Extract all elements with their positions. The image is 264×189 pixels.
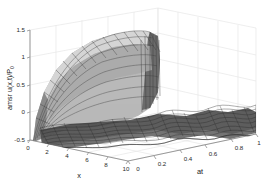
z-axis-label-main: amsr u(x,t)/P bbox=[5, 69, 14, 110]
y-tick-label: 0.2 bbox=[158, 160, 167, 167]
y-axis-label: at bbox=[197, 167, 203, 176]
z-axis-label-subscript: 0 bbox=[9, 66, 15, 69]
z-tick-labels: 1.5 1 0.5 0 -0.5 bbox=[14, 26, 25, 143]
y-tick-label: 0.8 bbox=[235, 144, 244, 151]
surface-plot-figure: 1.5 1 0.5 0 -0.5 0 2 4 6 8 10 0 0.2 0.4 … bbox=[0, 0, 264, 189]
z-axis-label: amsr u(x,t)/P0 bbox=[5, 66, 15, 110]
x-tick-label: 8 bbox=[104, 161, 108, 168]
x-tick-label: 4 bbox=[65, 152, 69, 159]
z-tick-label: 0 bbox=[22, 108, 26, 115]
z-tick-label: 1 bbox=[22, 53, 26, 60]
x-tick-label: 10 bbox=[123, 165, 130, 172]
y-tick-label: 1 bbox=[257, 139, 261, 146]
z-tick-label: 1.5 bbox=[16, 26, 25, 33]
x-tick-label: 2 bbox=[45, 148, 49, 155]
x-tick-label: 0 bbox=[26, 144, 30, 151]
plot-canvas: 1.5 1 0.5 0 -0.5 0 2 4 6 8 10 0 0.2 0.4 … bbox=[0, 0, 264, 189]
x-tick-label: 6 bbox=[85, 156, 89, 163]
x-axis-label: x bbox=[77, 171, 81, 180]
z-tick-label: -0.5 bbox=[14, 136, 25, 143]
y-tick-label: 0.4 bbox=[184, 155, 193, 162]
surface-mesh bbox=[33, 31, 256, 150]
y-tick-label: 0 bbox=[136, 165, 140, 172]
svg-text:amsr u(x,t)/P0: amsr u(x,t)/P0 bbox=[5, 66, 15, 110]
y-tick-label: 0.6 bbox=[209, 150, 218, 157]
z-tick-label: 0.5 bbox=[16, 81, 25, 88]
